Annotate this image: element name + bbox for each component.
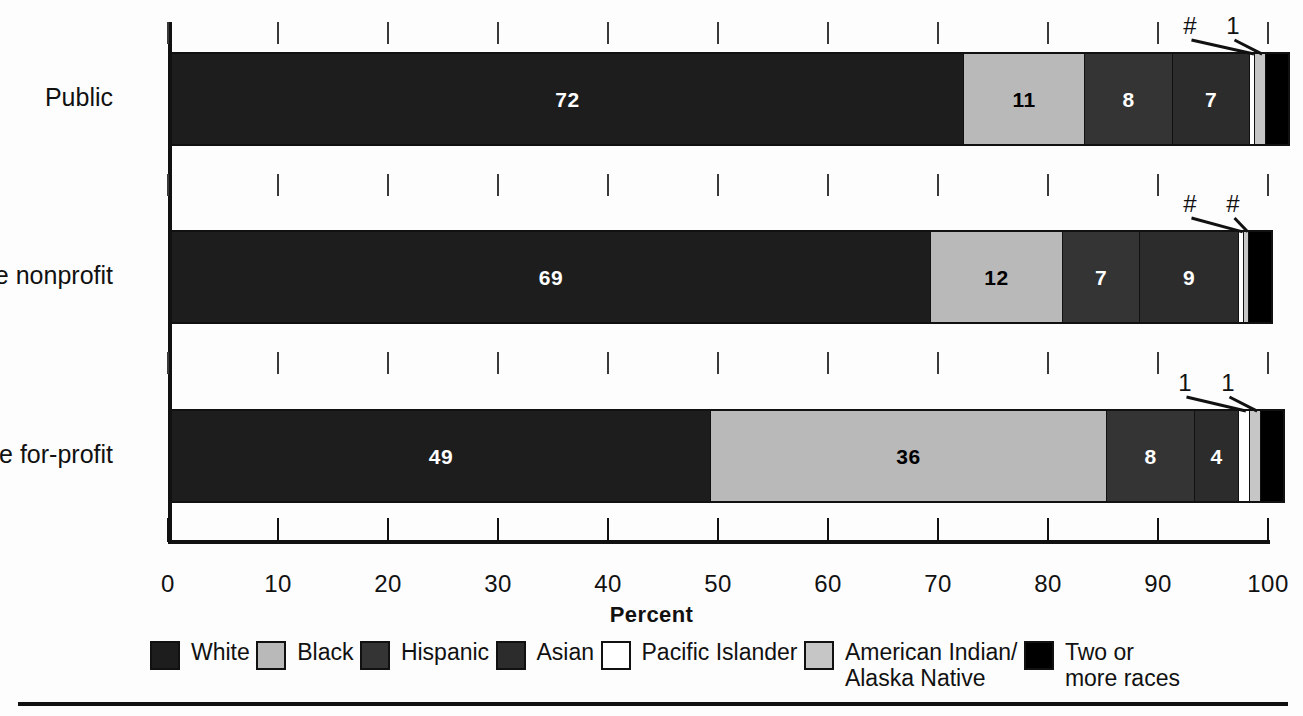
x-tick-label-70: 70 bbox=[924, 570, 952, 598]
tick-top-20 bbox=[387, 22, 389, 44]
x-tick-label-10: 10 bbox=[264, 570, 292, 598]
bar-segment-label-0-3: 7 bbox=[1205, 89, 1217, 110]
legend: WhiteBlackHispanicAsianPacific IslanderA… bbox=[150, 640, 1180, 692]
bar-segment-1-0: 69 bbox=[172, 232, 931, 322]
tick-gap2-20 bbox=[387, 352, 389, 374]
tick-gap1-50 bbox=[717, 174, 719, 196]
category-label-2: Private for-profit bbox=[0, 440, 113, 469]
tick-bottom-20 bbox=[387, 518, 389, 542]
tick-top-40 bbox=[607, 22, 609, 44]
tick-top-30 bbox=[497, 22, 499, 44]
tick-bottom-0 bbox=[167, 518, 169, 542]
legend-label-1: Black bbox=[297, 640, 353, 666]
bar-segment-1-2: 7 bbox=[1063, 232, 1140, 322]
legend-item-6[interactable]: Two or more races bbox=[1024, 640, 1180, 692]
bar-segment-2-5 bbox=[1250, 411, 1261, 501]
tick-gap2-30 bbox=[497, 352, 499, 374]
tick-gap1-80 bbox=[1047, 174, 1049, 196]
legend-item-1[interactable]: Black bbox=[256, 640, 353, 670]
bar-segment-1-3: 9 bbox=[1140, 232, 1239, 322]
legend-item-3[interactable]: Asian bbox=[496, 640, 595, 670]
legend-label-3: Asian bbox=[537, 640, 595, 666]
callout-label-0-5: 1 bbox=[1226, 14, 1239, 38]
bar-segment-label-0-0: 72 bbox=[555, 89, 579, 110]
x-tick-label-60: 60 bbox=[814, 570, 842, 598]
bar-segment-2-1: 36 bbox=[711, 411, 1107, 501]
legend-swatch-icon-1 bbox=[256, 641, 286, 670]
tick-gap1-0 bbox=[167, 174, 169, 196]
x-tick-label-20: 20 bbox=[374, 570, 402, 598]
tick-gap1-20 bbox=[387, 174, 389, 196]
tick-gap2-10 bbox=[277, 352, 279, 374]
bar-segment-2-3: 4 bbox=[1195, 411, 1239, 501]
tick-bottom-10 bbox=[277, 518, 279, 542]
tick-top-100 bbox=[1267, 22, 1269, 44]
bar-segment-2-2: 8 bbox=[1107, 411, 1195, 501]
bar-segment-label-0-1: 11 bbox=[1012, 89, 1035, 110]
bar-segment-0-5 bbox=[1255, 54, 1266, 144]
x-tick-label-100: 100 bbox=[1247, 570, 1289, 598]
tick-gap1-30 bbox=[497, 174, 499, 196]
bar-segment-label-1-1: 12 bbox=[984, 267, 1008, 288]
tick-bottom-100 bbox=[1267, 518, 1269, 542]
tick-bottom-70 bbox=[937, 518, 939, 542]
bar-segment-0-0: 72 bbox=[172, 54, 964, 144]
legend-swatch-icon-6 bbox=[1024, 641, 1054, 670]
bar-segment-0-1: 11 bbox=[964, 54, 1085, 144]
legend-item-4[interactable]: Pacific Islander bbox=[601, 640, 798, 670]
legend-item-5[interactable]: American Indian/ Alaska Native bbox=[804, 640, 1018, 692]
bar-segment-2-0: 49 bbox=[172, 411, 711, 501]
bar-segment-label-0-2: 8 bbox=[1122, 89, 1134, 110]
legend-item-0[interactable]: White bbox=[150, 640, 250, 670]
tick-top-50 bbox=[717, 22, 719, 44]
tick-gap2-0 bbox=[167, 352, 169, 374]
tick-gap1-10 bbox=[277, 174, 279, 196]
bar-segment-label-2-2: 8 bbox=[1144, 446, 1156, 467]
bar-row-0: 721187 bbox=[172, 52, 1290, 146]
x-axis-line bbox=[168, 540, 1270, 544]
bar-segment-0-2: 8 bbox=[1085, 54, 1173, 144]
legend-swatch-icon-0 bbox=[150, 641, 180, 670]
tick-gap2-90 bbox=[1157, 352, 1159, 374]
tick-top-60 bbox=[827, 22, 829, 44]
footer-rule bbox=[18, 702, 1288, 706]
legend-swatch-icon-4 bbox=[601, 641, 631, 670]
tick-top-0 bbox=[167, 22, 169, 44]
tick-gap1-40 bbox=[607, 174, 609, 196]
legend-label-5: American Indian/ Alaska Native bbox=[845, 640, 1018, 692]
tick-gap2-70 bbox=[937, 352, 939, 374]
tick-top-10 bbox=[277, 22, 279, 44]
bar-segment-0-6 bbox=[1266, 54, 1288, 144]
tick-bottom-60 bbox=[827, 518, 829, 542]
callout-label-0-4: # bbox=[1183, 14, 1196, 38]
tick-gap1-60 bbox=[827, 174, 829, 196]
bar-segment-2-4 bbox=[1239, 411, 1250, 501]
tick-top-90 bbox=[1157, 22, 1159, 44]
bar-segment-label-1-0: 69 bbox=[539, 267, 563, 288]
bar-segment-2-6 bbox=[1261, 411, 1283, 501]
tick-gap1-70 bbox=[937, 174, 939, 196]
bar-segment-label-2-1: 36 bbox=[896, 446, 920, 467]
tick-gap1-100 bbox=[1267, 174, 1269, 196]
tick-bottom-80 bbox=[1047, 518, 1049, 542]
bar-segment-0-3: 7 bbox=[1173, 54, 1250, 144]
bar-segment-label-1-3: 9 bbox=[1183, 267, 1195, 288]
legend-label-4: Pacific Islander bbox=[642, 640, 798, 666]
tick-bottom-40 bbox=[607, 518, 609, 542]
category-label-1: Private nonprofit bbox=[0, 261, 113, 290]
bar-segment-1-6 bbox=[1249, 232, 1271, 322]
bar-segment-label-2-3: 4 bbox=[1210, 446, 1222, 467]
bar-segment-label-1-2: 7 bbox=[1095, 267, 1107, 288]
tick-gap2-60 bbox=[827, 352, 829, 374]
legend-item-2[interactable]: Hispanic bbox=[360, 640, 489, 670]
legend-swatch-icon-5 bbox=[804, 641, 834, 670]
tick-gap2-50 bbox=[717, 352, 719, 374]
tick-top-80 bbox=[1047, 22, 1049, 44]
callout-label-2-4: 1 bbox=[1178, 371, 1191, 395]
x-axis-title: Percent bbox=[0, 602, 1303, 628]
callout-label-1-4: # bbox=[1183, 192, 1196, 216]
tick-bottom-90 bbox=[1157, 518, 1159, 542]
bar-segment-label-2-0: 49 bbox=[429, 446, 453, 467]
tick-gap2-40 bbox=[607, 352, 609, 374]
x-tick-label-30: 30 bbox=[484, 570, 512, 598]
